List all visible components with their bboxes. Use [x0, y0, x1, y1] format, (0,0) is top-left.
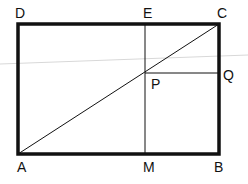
diagonal-ac [18, 24, 219, 154]
geometry-diagram: D E C Q P A M B [0, 0, 248, 184]
label-e: E [143, 5, 152, 21]
label-p: P [151, 76, 160, 92]
label-m: M [143, 159, 155, 175]
label-q: Q [223, 67, 234, 83]
label-d: D [15, 5, 25, 21]
label-c: C [217, 5, 227, 21]
faint-guide-line [0, 55, 248, 64]
label-a: A [17, 159, 27, 175]
label-b: B [214, 159, 223, 175]
